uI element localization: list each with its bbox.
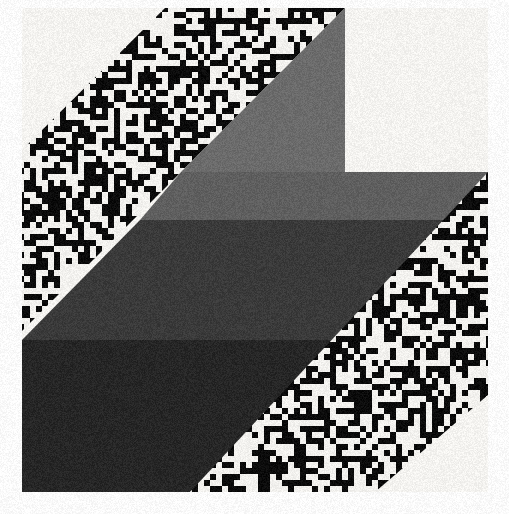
artwork-stage: Abstract diagonal noise-band composition…	[0, 0, 509, 514]
artboard	[0, 0, 509, 514]
abstract-noise-composition-canvas	[0, 0, 509, 514]
